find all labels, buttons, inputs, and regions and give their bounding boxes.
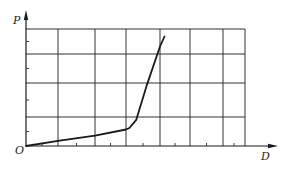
minor-ticks — [26, 42, 234, 147]
origin-label: O — [15, 145, 24, 156]
chart-canvas — [0, 0, 286, 172]
x-axis-label: D — [261, 151, 270, 162]
y-axis-label: P — [13, 15, 20, 26]
axes — [24, 10, 278, 148]
grid-lines — [26, 29, 245, 146]
